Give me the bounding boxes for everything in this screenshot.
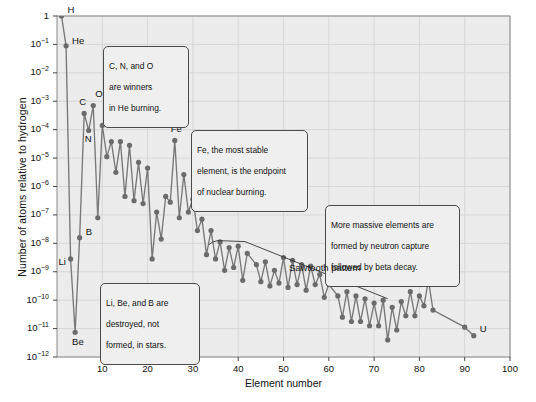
callout-he-burning: C, N, and O are winners in He burning.: [103, 46, 189, 128]
data-point: [294, 282, 299, 287]
data-point: [267, 283, 272, 288]
x-tick-label: 90: [445, 363, 485, 374]
data-point: [349, 319, 354, 324]
data-point: [304, 288, 309, 293]
point-label-o: O: [95, 88, 102, 99]
data-point: [372, 300, 377, 305]
data-point: [82, 111, 87, 116]
y-tick-label: 10−5: [0, 152, 49, 163]
data-point: [136, 160, 141, 165]
data-point: [163, 194, 168, 199]
data-point: [131, 198, 136, 203]
data-point: [412, 313, 417, 318]
data-point: [421, 303, 426, 308]
data-point: [358, 319, 363, 324]
data-point: [340, 315, 345, 320]
data-point: [118, 139, 123, 144]
data-point: [77, 235, 82, 240]
point-label-n: N: [85, 133, 92, 144]
data-point: [367, 323, 372, 328]
y-tick-label: 10−8: [0, 237, 49, 248]
data-point: [285, 285, 290, 290]
data-point: [403, 313, 408, 318]
abundance-chart-figure: Number of atoms relative to hydrogen Ele…: [0, 0, 536, 402]
x-tick-label: 60: [309, 363, 349, 374]
data-point: [91, 103, 96, 108]
y-tick-label: 1: [0, 10, 49, 21]
data-point: [177, 215, 182, 220]
callout-lbb-line3: formed, in stars.: [106, 340, 194, 351]
data-point: [417, 293, 422, 298]
data-point: [245, 251, 250, 256]
point-label-h: H: [68, 4, 75, 15]
data-point: [159, 236, 164, 241]
data-point: [122, 194, 127, 199]
callout-neutron-capture: More massive elements are formed by neut…: [325, 205, 460, 287]
data-point: [127, 143, 132, 148]
data-point: [140, 201, 145, 206]
x-tick-label: 50: [264, 363, 304, 374]
data-point: [186, 209, 191, 214]
data-point: [344, 289, 349, 294]
data-point: [154, 209, 159, 214]
data-point: [113, 170, 118, 175]
data-point: [181, 172, 186, 177]
data-point: [213, 256, 218, 261]
x-axis-label: Element number: [57, 377, 510, 389]
data-point: [313, 282, 318, 287]
data-point: [385, 337, 390, 342]
callout-lbb-line2: destroyed, not: [106, 319, 194, 330]
data-point: [168, 200, 173, 205]
callout-fe-line2: element, is the endpoint: [197, 166, 302, 177]
data-point: [109, 139, 114, 144]
y-tick-label: 10−4: [0, 123, 49, 134]
callout-fe-line1: Fe, the most stable: [197, 145, 302, 156]
data-point: [227, 245, 232, 250]
data-point: [236, 244, 241, 249]
x-tick-label: 40: [218, 363, 258, 374]
point-label-be: Be: [72, 336, 84, 347]
data-point: [362, 296, 367, 301]
y-tick-label: 10−9: [0, 265, 49, 276]
data-point: [104, 154, 109, 159]
y-tick-label: 10−11: [0, 322, 49, 333]
data-point: [399, 299, 404, 304]
point-label-li: Li: [59, 256, 66, 267]
data-point: [195, 228, 200, 233]
data-point: [254, 262, 259, 267]
x-tick-label: 70: [354, 363, 394, 374]
data-point: [394, 327, 399, 332]
data-point: [322, 295, 327, 300]
x-tick-label: 80: [399, 363, 439, 374]
data-point: [471, 333, 476, 338]
callout-nc-line1: More massive elements are: [331, 220, 454, 231]
data-point: [376, 323, 381, 328]
y-tick-label: 10−3: [0, 95, 49, 106]
x-tick-label: 100: [490, 363, 530, 374]
sawtooth-annotation-label: Sawtooth pattern: [289, 262, 361, 273]
data-point: [204, 252, 209, 257]
point-label-c: C: [79, 96, 86, 107]
data-point: [263, 259, 268, 264]
y-tick-label: 10−2: [0, 66, 49, 77]
callout-nc-line2: formed by neutron capture: [331, 241, 454, 252]
data-point: [199, 217, 204, 222]
data-point: [240, 278, 245, 283]
data-point: [258, 279, 263, 284]
callout-fe-line3: of nuclear burning.: [197, 187, 302, 198]
y-tick-label: 10−7: [0, 208, 49, 219]
data-point: [408, 289, 413, 294]
point-label-he: He: [72, 35, 84, 46]
callout-light-destroyed: Li, Be, and B are destroyed, not formed,…: [100, 283, 200, 365]
y-tick-label: 10−6: [0, 180, 49, 191]
callout-he-line3: in He burning.: [109, 103, 183, 114]
data-point: [172, 138, 177, 143]
data-point: [63, 43, 68, 48]
data-point: [462, 325, 467, 330]
data-point: [390, 305, 395, 310]
y-tick-label: 10−10: [0, 294, 49, 305]
data-point: [73, 330, 78, 335]
y-tick-label: 10−12: [0, 351, 49, 362]
data-point: [95, 215, 100, 220]
data-point: [272, 268, 277, 273]
